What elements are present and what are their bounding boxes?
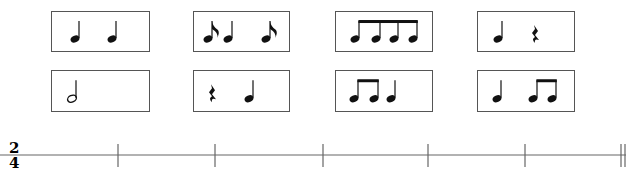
single-line-staff: 2 4 [0,130,632,175]
rhythm-card-8 [477,70,575,112]
rhythm-card-4 [477,11,575,52]
rhythm-card-3 [335,11,433,52]
rhythm-card-1 [51,11,150,52]
rhythm-card-5 [51,70,150,112]
beam [358,20,417,23]
time-signature-bottom: 4 [9,154,19,172]
rhythm-card-7 [335,70,433,112]
flag-icon [212,21,219,38]
rhythm-card-2 [193,11,290,52]
beam [357,79,378,82]
quarter-rest-icon [532,25,539,43]
quarter-rest-icon [209,84,216,102]
flag-icon [270,21,277,38]
rhythm-card-6 [193,70,290,112]
beam [536,79,556,82]
